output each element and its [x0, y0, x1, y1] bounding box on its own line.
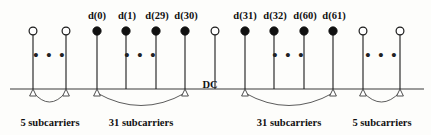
- label-group-right-guard: 5 subcarriers: [352, 117, 411, 128]
- arrowhead-left-guard-start: [30, 89, 37, 96]
- label-d30: d(30): [174, 10, 198, 22]
- marker-d31: [241, 27, 249, 35]
- ellipsis-left-guard: • • •: [33, 47, 66, 63]
- marker-null-left-1: [29, 27, 37, 35]
- ellipsis-right-guard: • • •: [365, 47, 398, 63]
- arrowhead-left-data-end: [182, 89, 189, 96]
- label-d29: d(29): [145, 10, 169, 22]
- data-label-group: d(0) d(1) d(29) d(30) d(31) d(32) d(60) …: [88, 10, 346, 22]
- marker-d1: [122, 27, 130, 35]
- subcarrier-diagram-canvas: d(0) d(1) d(29) d(30) d(31) d(32) d(60) …: [0, 0, 431, 135]
- label-d61: d(61): [322, 10, 346, 22]
- label-dc: DC: [202, 79, 217, 90]
- marker-d60: [300, 27, 308, 35]
- ellipsis-right-data: • • •: [272, 47, 305, 63]
- label-d0: d(0): [88, 10, 107, 22]
- arc-left-guard: [33, 92, 66, 102]
- marker-null-left-2: [62, 27, 70, 35]
- marker-null-right-2: [396, 27, 404, 35]
- marker-null-right-1: [359, 27, 367, 35]
- label-d32: d(32): [263, 10, 287, 22]
- label-group-left-data: 31 subcarriers: [109, 117, 173, 128]
- arc-right-data: [245, 93, 333, 106]
- span-arc-group: [30, 89, 404, 106]
- label-group-right-data: 31 subcarriers: [257, 117, 321, 128]
- marker-d32: [270, 27, 278, 35]
- group-label-group: 5 subcarriers 31 subcarriers 31 subcarri…: [20, 117, 411, 128]
- label-d60: d(60): [293, 10, 317, 22]
- marker-d30: [181, 27, 189, 35]
- arrowhead-left-data-start: [94, 89, 101, 96]
- label-d31: d(31): [233, 10, 257, 22]
- arrowhead-right-data-end: [330, 89, 337, 96]
- arc-right-guard: [363, 92, 400, 102]
- arc-left-data: [97, 93, 185, 106]
- label-group-left-guard: 5 subcarriers: [20, 117, 79, 128]
- arrowhead-left-guard-end: [63, 89, 70, 96]
- arrowhead-right-data-start: [242, 89, 249, 96]
- marker-d61: [329, 27, 337, 35]
- label-d1: d(1): [118, 10, 137, 22]
- ellipsis-group: • • • • • • • • • • • •: [33, 47, 398, 63]
- subcarrier-allocation-figure: d(0) d(1) d(29) d(30) d(31) d(32) d(60) …: [0, 0, 431, 135]
- arrowhead-right-guard-start: [360, 89, 367, 96]
- marker-d0: [93, 27, 101, 35]
- null-subcarrier-markers: [29, 27, 404, 35]
- ellipsis-left-data: • • •: [124, 47, 157, 63]
- marker-d29: [152, 27, 160, 35]
- marker-dc-subcarrier: [211, 27, 219, 35]
- arrowhead-right-guard-end: [397, 89, 404, 96]
